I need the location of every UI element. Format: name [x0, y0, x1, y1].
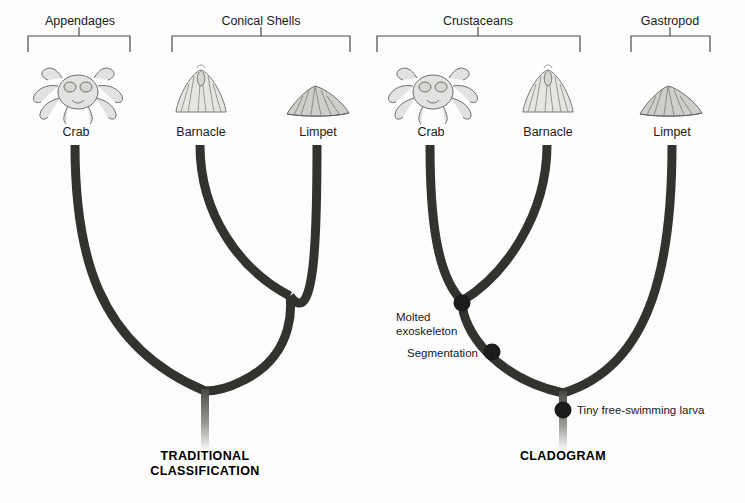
node-molted-exoskeleton[interactable]	[454, 295, 471, 312]
caption-line-1: CLADOGRAM	[483, 449, 643, 464]
group-label-gastropod: Gastropod	[628, 14, 712, 28]
group-label-conical-shells: Conical Shells	[205, 14, 317, 28]
traditional-tree-branches	[75, 145, 317, 391]
taxon-label-barnacle: Barnacle	[517, 125, 579, 139]
panel-caption-traditional: TRADITIONAL CLASSIFICATION	[125, 449, 285, 479]
bracket-crustaceans	[377, 27, 580, 52]
bracket-conical-shells	[172, 27, 350, 52]
cladogram-root-stem	[559, 391, 567, 451]
taxon-label-crab: Crab	[403, 125, 459, 139]
node-label-molted-exoskeleton-line2: exoskeleton	[396, 324, 457, 338]
caption-line-1: TRADITIONAL	[125, 449, 285, 464]
figure-canvas: Appendages Conical Shells Crustaceans Ga…	[0, 0, 745, 503]
bracket-gastropod	[631, 27, 710, 52]
caption-line-2: CLASSIFICATION	[125, 464, 285, 479]
barnacle-illustration	[172, 62, 230, 120]
node-label-segmentation: Segmentation	[407, 346, 478, 360]
node-tiny-free-swimming-larva[interactable]	[555, 402, 572, 419]
bracket-appendages	[28, 27, 130, 52]
group-label-appendages: Appendages	[34, 14, 126, 28]
crab-illustration	[383, 54, 483, 126]
taxon-label-limpet: Limpet	[290, 125, 346, 139]
taxon-label-limpet: Limpet	[644, 125, 700, 139]
limpet-illustration	[285, 82, 351, 120]
panel-caption-cladogram: CLADOGRAM	[483, 449, 643, 464]
node-label-tiny-free-swimming-larva: Tiny free-swimming larva	[577, 403, 704, 417]
limpet-illustration	[638, 82, 704, 120]
group-label-crustaceans: Crustaceans	[423, 14, 533, 28]
node-segmentation[interactable]	[484, 344, 501, 361]
barnacle-illustration	[519, 62, 577, 120]
taxon-label-barnacle: Barnacle	[170, 125, 232, 139]
node-label-molted-exoskeleton-line1: Molted	[396, 310, 431, 324]
taxon-label-crab: Crab	[48, 125, 104, 139]
crab-illustration	[28, 54, 128, 126]
traditional-root-stem	[201, 389, 209, 451]
